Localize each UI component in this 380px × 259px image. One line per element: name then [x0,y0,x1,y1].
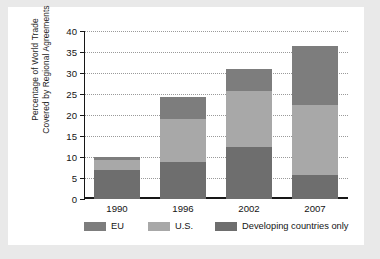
y-tick-mark [80,52,85,53]
bar-segment[interactable] [292,175,338,199]
y-tick-mark [80,31,85,32]
chart-figure: Percentage of World Trade Covered by Reg… [8,7,364,245]
legend-label: U.S. [175,221,193,231]
y-tick-label: 25 [66,89,77,100]
legend-label: EU [111,221,124,231]
chart-legend: EUU.S.Developing countries only [84,221,358,231]
legend-swatch-icon [84,222,106,231]
bar-segment[interactable] [94,170,140,199]
x-tick-label: 1990 [94,203,140,214]
x-tick-label: 1996 [160,203,206,214]
bar-2007[interactable] [292,46,338,199]
gridline [84,31,348,32]
legend-swatch-icon [215,222,237,231]
bar-2002[interactable] [226,69,272,199]
bar-segment[interactable] [226,147,272,199]
y-tick-mark [80,178,85,179]
bar-segment[interactable] [94,157,140,160]
legend-item[interactable]: Developing countries only [215,221,348,231]
legend-item[interactable]: U.S. [148,221,193,231]
bar-segment[interactable] [226,69,272,91]
y-tick-mark [80,136,85,137]
y-tick-label: 20 [66,110,77,121]
bar-segment[interactable] [94,160,140,170]
y-tick-label: 10 [66,152,77,163]
y-tick-mark [80,94,85,95]
bar-1990[interactable] [94,157,140,199]
x-tick-label: 2002 [226,203,272,214]
y-tick-label: 35 [66,47,77,58]
x-tick-label: 2007 [292,203,338,214]
y-tick-mark [80,115,85,116]
y-tick-mark [80,157,85,158]
bar-segment[interactable] [292,46,338,105]
y-tick-label: 40 [66,26,77,37]
y-tick-label: 15 [66,131,77,142]
y-tick-mark [80,73,85,74]
bar-segment[interactable] [292,105,338,175]
bar-segment[interactable] [160,119,206,162]
legend-swatch-icon [148,222,170,231]
bar-segment[interactable] [226,91,272,148]
y-tick-label: 0 [72,194,77,205]
y-tick-label: 30 [66,68,77,79]
legend-item[interactable]: EU [84,221,124,231]
bar-segment[interactable] [160,97,206,119]
y-tick-mark [80,199,85,200]
plot-area: 0510152025303540 1990199620022007 [84,31,348,199]
y-axis-title: Percentage of World Trade Covered by Reg… [30,0,51,154]
bar-segment[interactable] [160,162,206,199]
legend-label: Developing countries only [242,221,348,231]
bar-1996[interactable] [160,97,206,199]
y-tick-label: 5 [72,173,77,184]
